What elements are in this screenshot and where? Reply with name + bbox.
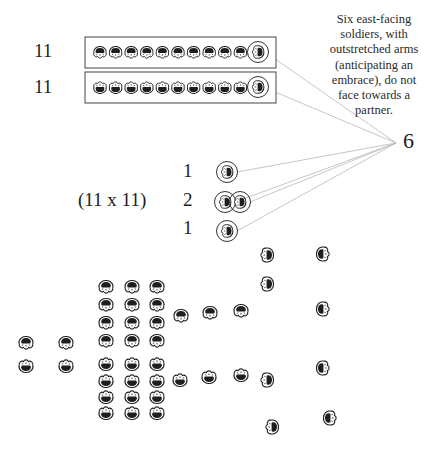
soldier-icon [125, 407, 139, 420]
center-row-1-label: 1 [183, 160, 193, 182]
soldier-icon [125, 298, 139, 311]
rank-boxes [85, 37, 276, 103]
soldier-icon [174, 309, 188, 322]
soldier-icon [234, 304, 248, 317]
soldier-icon [203, 306, 217, 319]
rank-1-box [85, 37, 276, 68]
soldier-icon [323, 411, 336, 425]
soldier-icon [150, 391, 164, 404]
center-row-3-label: 1 [183, 217, 193, 239]
soldier-icon [99, 280, 113, 293]
note-line: soldiers, with [316, 27, 432, 42]
soldier-icon [99, 298, 113, 311]
soldier-icon [150, 407, 164, 420]
soldier-icon [99, 407, 113, 420]
note-line: face towards a [316, 88, 432, 103]
note-line: (anticipating an [316, 58, 432, 73]
soldier-icon [19, 360, 33, 373]
soldier-icon [59, 336, 73, 349]
soldier-icon [202, 371, 216, 384]
soldier-icon [316, 247, 329, 261]
rank-2-box [85, 72, 276, 103]
soldier-icon [150, 358, 164, 371]
soldier-icon [173, 374, 187, 387]
soldier-icon [125, 316, 139, 329]
soldier-icon [125, 334, 139, 347]
soldier-icon [125, 375, 139, 388]
rank-2-count-label: 11 [34, 76, 52, 98]
soldier-icon [125, 391, 139, 404]
soldier-icon [99, 375, 113, 388]
formation-size-label: (11 x 11) [78, 189, 146, 211]
rank-1-count-label: 11 [34, 40, 52, 62]
soldier-icon [99, 334, 113, 347]
soldier-icon [234, 196, 245, 209]
field-formation [19, 247, 336, 434]
note-line: embrace), do not [316, 73, 432, 88]
soldier-icon [99, 316, 113, 329]
soldier-icon [150, 298, 164, 311]
center-row-2-label: 2 [183, 189, 193, 211]
note-line: outstretched arms [316, 42, 432, 57]
soldier-icon [125, 280, 139, 293]
soldier-icon [150, 316, 164, 329]
soldier-icon [221, 225, 232, 238]
note-line: partner. [316, 103, 432, 118]
annotation-count-label: 6 [403, 128, 414, 154]
soldier-icon [150, 375, 164, 388]
soldier-icon [99, 358, 113, 371]
soldier-icon [221, 166, 232, 179]
soldier-icon [150, 280, 164, 293]
soldier-icon [59, 360, 73, 373]
soldier-icon [261, 277, 274, 291]
note-line: Six east-facing [316, 12, 432, 27]
soldier-icon [261, 248, 274, 262]
soldier-icon [125, 358, 139, 371]
soldier-icon [261, 373, 274, 387]
soldier-icon [316, 302, 329, 316]
soldier-icon [266, 420, 279, 434]
soldier-icon [234, 369, 248, 382]
soldier-icon [99, 391, 113, 404]
annotation-note: Six east-facing soldiers, with outstretc… [316, 12, 432, 118]
soldier-icon [150, 334, 164, 347]
center-circled-units [215, 162, 251, 242]
soldier-icon [316, 361, 329, 375]
soldier-icon [19, 336, 33, 349]
